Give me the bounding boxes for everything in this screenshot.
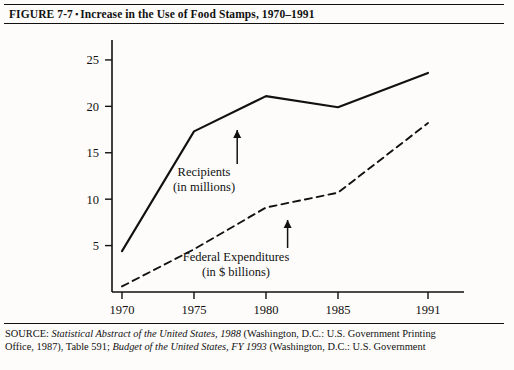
chart-annotations-layer: Recipients(in millions)Federal Expenditu… [173,130,292,279]
source-prefix-2: Office, 1987), Table 591; [5,341,112,352]
x-axis-ticks: 19701975198019851991 [110,292,441,317]
plot-panel: 510152025 19701975198019851991 Recipient… [4,26,504,324]
y-tick-label: 15 [87,146,100,160]
source-suffix-2: (Washington, D.C.: U.S. Government [267,341,426,352]
annotation-label-line1: Federal Expenditures [183,250,290,264]
x-tick-label: 1985 [326,303,351,317]
figure-title: FIGURE 7-7▪Increase in the Use of Food S… [9,8,315,20]
figure-title-text: Increase in the Use of Food Stamps, 1970… [80,8,314,20]
annotation-arrow-head [233,130,241,138]
annotation-label-line2: (in $ billions) [202,265,270,279]
y-axis-ticks: 510152025 [87,53,113,253]
y-tick-label: 25 [87,53,100,67]
y-tick-label: 20 [87,100,100,114]
y-tick-label: 5 [93,239,99,253]
line-chart: 510152025 19701975198019851991 Recipient… [4,26,504,324]
source-title-2: Budget of the United States, FY 1993 [112,341,266,352]
x-tick-label: 1980 [254,303,279,317]
source-line-1: SOURCE: Statistical Abstract of the Unit… [5,327,510,340]
annotation-arrow-head [284,220,292,228]
figure-title-bar: FIGURE 7-7▪Increase in the Use of Food S… [4,4,504,24]
annotation-label-line2: (in millions) [173,180,235,194]
source-prefix: SOURCE: [5,328,51,339]
source-line-2: Office, 1987), Table 591; Budget of the … [5,340,510,353]
annotation-label-line1: Recipients [178,165,231,179]
source-suffix-1: (Washington, D.C.: U.S. Government Print… [241,328,436,339]
y-tick-label: 10 [87,193,100,207]
x-tick-label: 1991 [416,303,441,317]
source-note: SOURCE: Statistical Abstract of the Unit… [5,327,510,354]
source-title-1: Statistical Abstract of the United State… [51,328,240,339]
series-line-0 [122,73,428,251]
x-tick-label: 1970 [110,303,135,317]
figure-container: FIGURE 7-7▪Increase in the Use of Food S… [0,0,514,370]
x-tick-label: 1975 [182,303,207,317]
figure-number: FIGURE 7-7 [9,8,73,20]
